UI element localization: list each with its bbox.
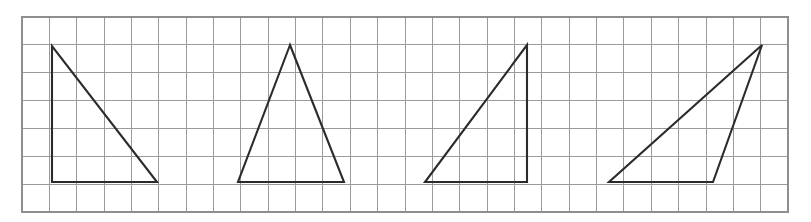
grid-triangles-figure: Right triangle, right angle at bottom-le… bbox=[0, 0, 811, 222]
figure-container: Right triangle, right angle at bottom-le… bbox=[0, 0, 811, 222]
